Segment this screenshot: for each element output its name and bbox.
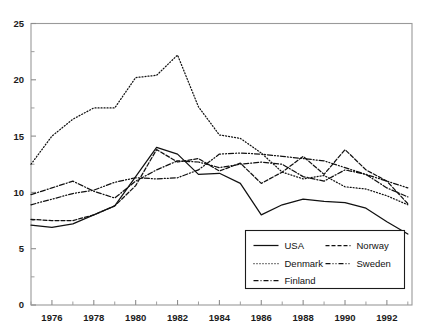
series-line-denmark [31,55,408,205]
line-chart: 0510152025 19761978198019821984198619881… [0,0,430,336]
x-tick-label: 1988 [293,312,314,323]
y-tick-label: 0 [19,299,24,310]
y-tick-label: 20 [13,74,24,85]
x-tick-label: 1990 [334,312,355,323]
x-tick-label: 1980 [125,312,146,323]
series-lines [31,55,408,234]
legend-label-denmark: Denmark [285,258,324,269]
x-tick-label: 1978 [83,312,104,323]
series-line-finland [31,161,408,198]
x-tick-label: 1984 [209,312,231,323]
y-axis-tick-labels: 0510152025 [13,18,24,311]
y-tick-label: 5 [19,243,25,254]
x-axis-tick-labels: 197619781980198219841986198819901992 [41,312,397,323]
chart-canvas: 0510152025 19761978198019821984198619881… [0,0,430,336]
series-line-usa [31,147,408,234]
y-tick-label: 15 [13,131,24,142]
y-tick-label: 25 [13,18,24,29]
legend-label-finland: Finland [285,275,316,286]
x-tick-label: 1992 [376,312,397,323]
x-tick-label: 1976 [41,312,62,323]
x-tick-label: 1986 [251,312,272,323]
legend-label-usa: USA [285,240,305,251]
y-tick-label: 10 [13,187,24,198]
series-line-sweden [31,153,408,205]
series-line-norway [31,150,408,221]
x-axis-ticks [31,300,408,305]
chart-legend: USANorwayDenmarkSwedenFinland [246,231,405,289]
legend-label-sweden: Sweden [357,258,391,269]
legend-label-norway: Norway [357,240,389,251]
x-tick-label: 1982 [167,312,188,323]
